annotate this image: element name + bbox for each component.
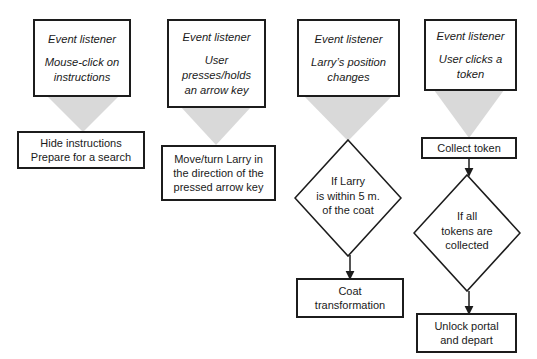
action-line-1: Move/turn Larry in <box>174 152 263 166</box>
connector-decision-to-portal <box>461 291 477 315</box>
node-result-coat-transformation[interactable]: Coat transformation <box>296 278 404 318</box>
node-listener-mouse-click[interactable]: Event listener Mouse-click on instructio… <box>33 19 131 97</box>
decision-line-3: collected <box>413 238 521 253</box>
decision-line-1: If Larry <box>294 174 402 189</box>
node-action-hide-instructions[interactable]: Hide instructions Prepare for a search <box>17 131 145 169</box>
listener-heading: Event listener <box>437 29 505 44</box>
action-line-2: the direction of the <box>173 166 264 180</box>
decision-text: If Larry is within 5 m. of the coat <box>294 174 402 218</box>
listener-line-3: an arrow key <box>184 83 248 98</box>
result-line-2: and depart <box>440 333 493 347</box>
listener-line-2: changes <box>327 70 369 85</box>
decision-line-2: is within 5 m. <box>294 189 402 204</box>
connector-decision-to-coat <box>342 255 358 280</box>
action-line-2: Prepare for a search <box>31 150 131 164</box>
listener-line-2: token <box>457 67 484 82</box>
decision-line-1: If all <box>413 209 521 224</box>
result-line-2: transformation <box>315 298 385 312</box>
node-listener-position-change[interactable]: Event listener Larry’s position changes <box>297 19 400 97</box>
flowchart-canvas: Event listener Mouse-click on instructio… <box>0 0 537 359</box>
action-line-3: pressed arrow key <box>174 180 264 194</box>
node-action-collect-token[interactable]: Collect token <box>421 137 517 159</box>
node-action-move-turn-larry[interactable]: Move/turn Larry in the direction of the … <box>161 145 276 201</box>
flow-arrow-wedge-position-change <box>304 96 392 141</box>
flow-arrow-wedge-mouse-click <box>47 96 119 132</box>
listener-line-1: User clicks a <box>439 52 502 67</box>
action-line-1: Hide instructions <box>40 136 121 150</box>
listener-line-1: Larry’s position <box>311 55 386 70</box>
listener-line-2: presses/holds <box>182 68 251 83</box>
result-line-1: Coat <box>338 284 361 298</box>
node-result-unlock-portal[interactable]: Unlock portal and depart <box>416 313 517 353</box>
listener-line-1: User <box>205 53 229 68</box>
decision-line-3: of the coat <box>294 203 402 218</box>
decision-text: If all tokens are collected <box>413 209 521 253</box>
flow-arrow-wedge-token-click <box>434 90 504 138</box>
action-line-1: Collect token <box>437 141 501 155</box>
listener-line-2: instructions <box>54 70 111 85</box>
node-decision-larry-within-5m[interactable]: If Larry is within 5 m. of the coat <box>294 139 402 257</box>
listener-line-1: Mouse-click on <box>45 55 120 70</box>
listener-heading: Event listener <box>48 32 116 47</box>
node-decision-all-tokens-collected[interactable]: If all tokens are collected <box>413 174 521 292</box>
node-listener-arrow-key[interactable]: Event listener User presses/holds an arr… <box>167 19 266 108</box>
result-line-1: Unlock portal <box>434 319 498 333</box>
flow-arrow-wedge-arrow-key <box>181 107 251 145</box>
node-listener-token-click[interactable]: Event listener User clicks a token <box>424 19 517 91</box>
listener-heading: Event listener <box>183 30 251 45</box>
listener-heading: Event listener <box>315 32 383 47</box>
decision-line-2: tokens are <box>413 224 521 239</box>
